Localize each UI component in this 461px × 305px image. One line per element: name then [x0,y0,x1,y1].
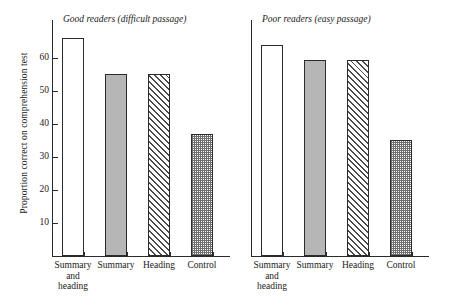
bar-left-control [191,134,213,256]
x-tick-left-1 [62,252,63,256]
bar-right-summary-and-heading [261,45,283,256]
cat-line: heading [245,281,299,292]
y-tick-label-10: 10 [27,217,49,227]
x-axis-baseline-right [251,256,429,257]
y-tick-label-20: 20 [27,184,49,194]
y-tick-label-50: 50 [27,85,49,95]
y-tick-20-left [53,190,58,191]
cat-line: and [245,271,299,282]
x-tick-right-4 [326,252,327,256]
x-tick-left-8 [213,252,214,256]
panel-title-poor-readers: Poor readers (easy passage) [262,14,371,24]
x-tick-left-5 [148,252,149,256]
bar-right-summary [304,60,326,256]
x-tick-right-3 [304,252,305,256]
cat-line: and [46,271,100,282]
x-tick-right-8 [412,252,413,256]
x-tick-left-2 [84,252,85,256]
x-tick-right-1 [261,252,262,256]
y-tick-30-left [53,157,58,158]
cat-line: heading [46,281,100,292]
x-tick-left-7 [191,252,192,256]
y-tick-40-left [53,124,58,125]
y-axis-spine-right [251,20,252,257]
x-tick-left-6 [170,252,171,256]
bar-left-summary-and-heading [62,38,84,256]
y-tick-10-left [53,223,58,224]
y-tick-label-60: 60 [27,52,49,62]
cat-line: Control [175,260,229,271]
x-axis-baseline-left [52,256,230,257]
figure: Proportion correct on comprehension test… [0,0,461,305]
x-tick-right-6 [369,252,370,256]
bar-right-control [390,140,412,256]
y-tick-label-30: 30 [27,151,49,161]
bar-right-heading [347,60,369,256]
x-category-label-left-4: Control [175,260,229,271]
x-tick-right-2 [283,252,284,256]
y-tick-50-left [53,91,58,92]
x-tick-left-4 [127,252,128,256]
x-tick-right-7 [390,252,391,256]
y-tick-60-left [53,58,58,59]
x-tick-left-3 [105,252,106,256]
y-tick-label-40: 40 [27,118,49,128]
bar-left-summary [105,74,127,256]
x-tick-right-5 [347,252,348,256]
x-category-label-right-4: Control [374,260,428,271]
bar-left-heading [148,74,170,256]
y-axis-spine-left [52,20,53,257]
panel-title-good-readers: Good readers (difficult passage) [63,14,186,24]
cat-line: Control [374,260,428,271]
